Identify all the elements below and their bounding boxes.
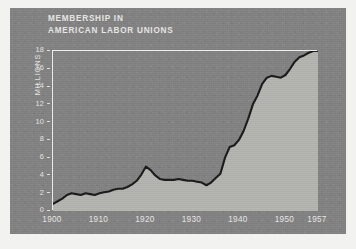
y-tick-label: 14 bbox=[22, 81, 44, 90]
chart-screenshot: MEMBERSHIP IN AMERICAN LABOR UNIONS MILL… bbox=[0, 0, 356, 249]
chart-panel: MEMBERSHIP IN AMERICAN LABOR UNIONS MILL… bbox=[10, 8, 346, 234]
y-tick-label: 12 bbox=[22, 99, 44, 108]
y-tick-mark bbox=[47, 121, 50, 122]
y-tick-label: 18 bbox=[22, 45, 44, 54]
y-tick-mark bbox=[47, 86, 50, 87]
x-tick-label: 1920 bbox=[128, 215, 162, 224]
y-tick-mark bbox=[47, 210, 50, 211]
chart-title-line2: AMERICAN LABOR UNIONS bbox=[48, 26, 173, 35]
y-tick-label: 16 bbox=[22, 63, 44, 72]
y-tick-label: 0 bbox=[22, 205, 44, 214]
x-tick-label: 1950 bbox=[267, 215, 301, 224]
y-tick-label: 10 bbox=[22, 117, 44, 126]
y-tick-mark bbox=[47, 192, 50, 193]
y-tick-label: 8 bbox=[22, 134, 44, 143]
y-tick-mark bbox=[47, 157, 50, 158]
y-tick-mark bbox=[47, 103, 50, 104]
chart-title-line1: MEMBERSHIP IN bbox=[48, 14, 124, 23]
y-tick-label: 2 bbox=[22, 188, 44, 197]
chart-title: MEMBERSHIP IN AMERICAN LABOR UNIONS bbox=[48, 13, 173, 36]
x-tick-label: 1900 bbox=[35, 215, 69, 224]
x-tick-label: 1957 bbox=[300, 215, 334, 224]
y-tick-mark bbox=[47, 68, 50, 69]
x-tick-label: 1930 bbox=[174, 215, 208, 224]
y-tick-label: 4 bbox=[22, 170, 44, 179]
y-tick-mark bbox=[47, 139, 50, 140]
y-tick-mark bbox=[47, 174, 50, 175]
x-tick-label: 1910 bbox=[81, 215, 115, 224]
area-chart-svg bbox=[53, 51, 318, 211]
y-tick-mark bbox=[47, 50, 50, 51]
y-tick-label: 6 bbox=[22, 152, 44, 161]
x-tick-label: 1940 bbox=[221, 215, 255, 224]
area-fill bbox=[53, 51, 318, 211]
plot-area bbox=[52, 50, 317, 210]
